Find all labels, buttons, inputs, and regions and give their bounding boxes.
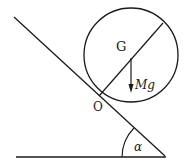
angle-label-alpha: α (134, 140, 142, 154)
incline-disc-diagram: G O Mg α (0, 0, 191, 165)
contact-label-o: O (93, 100, 103, 114)
center-label-g: G (116, 39, 126, 54)
weight-arrow-head (129, 84, 134, 93)
force-label-mg: Mg (134, 78, 155, 92)
angle-arc (122, 128, 134, 157)
